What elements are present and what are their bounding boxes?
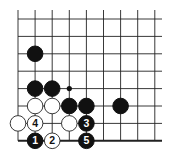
white-stone	[27, 98, 43, 114]
black-stone: 5	[79, 133, 95, 149]
move-number-label: 2	[49, 134, 55, 146]
black-stone: 1	[27, 133, 43, 149]
black-stone	[44, 81, 60, 97]
black-stone	[27, 81, 43, 97]
white-stone: 2	[44, 133, 60, 149]
move-number-label: 1	[32, 134, 38, 146]
small-dot-marker	[67, 86, 72, 91]
go-board: 43125	[0, 0, 173, 161]
black-stone	[113, 98, 129, 114]
move-number-label: 4	[32, 117, 38, 129]
black-stone	[79, 98, 95, 114]
move-number-label: 3	[83, 117, 89, 129]
black-stone	[62, 98, 78, 114]
black-stone	[27, 46, 43, 62]
white-stone: 4	[27, 116, 43, 132]
white-stone	[44, 98, 60, 114]
white-stone	[62, 116, 78, 132]
black-stone: 3	[79, 116, 95, 132]
board-markers	[67, 86, 72, 91]
move-number-label: 5	[83, 134, 89, 146]
white-stone	[10, 116, 26, 132]
